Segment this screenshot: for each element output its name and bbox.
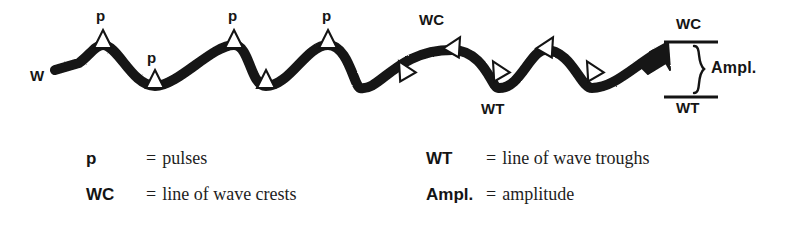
wave-label-wc: WC (419, 12, 444, 27)
legend-key-wc: WC (86, 185, 146, 205)
legend-equals: = (146, 148, 156, 169)
legend-item-pulses: p = pulses (86, 148, 207, 178)
bracket-label-wc: WC (676, 16, 701, 31)
pulse-label-p: p (147, 50, 156, 65)
legend-key-wt: WT (426, 149, 486, 169)
pulse-label-p: p (322, 8, 331, 23)
legend-desc-ampl: amplitude (502, 184, 574, 205)
legend: p = pulses WC = line of wave crests WT =… (0, 140, 790, 236)
bracket-label-wt: WT (676, 100, 700, 115)
legend-desc-p: pulses (162, 148, 207, 169)
wave-path (55, 45, 655, 88)
legend-equals: = (486, 184, 496, 205)
legend-equals: = (146, 184, 156, 205)
legend-item-wave-crests: WC = line of wave crests (86, 184, 297, 214)
pulse-marker-crest-icon (225, 30, 243, 48)
pulse-label-p: p (228, 8, 237, 23)
pulse-label-p: p (96, 8, 105, 23)
legend-item-amplitude: Ampl. = amplitude (426, 184, 574, 214)
pulse-marker-trough-icon (146, 70, 164, 88)
legend-equals: = (486, 148, 496, 169)
legend-key-p: p (86, 149, 146, 169)
pulse-marker-group (94, 30, 561, 57)
bracket-label-ampl: Ampl. (711, 60, 756, 76)
legend-desc-wt: line of wave troughs (502, 148, 649, 169)
wave-graphic (0, 0, 790, 140)
legend-key-ampl: Ampl. (426, 185, 486, 205)
amplitude-bracket-group (664, 42, 718, 97)
pulse-marker-crest-icon (94, 30, 112, 48)
wave-label-wt: WT (481, 101, 505, 116)
pulse-marker-crest-icon (319, 30, 337, 48)
legend-item-wave-troughs: WT = line of wave troughs (426, 148, 650, 178)
wave-diagram-figure: W WC WT p p p p WC WT Ampl. p = pulses W… (0, 0, 790, 236)
curly-brace-icon (694, 46, 704, 93)
legend-desc-wc: line of wave crests (162, 184, 296, 205)
wave-label-w: W (30, 68, 44, 83)
